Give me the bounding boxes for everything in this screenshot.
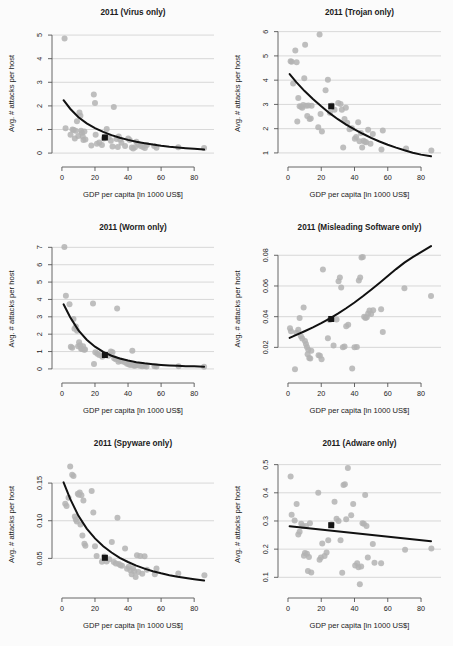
scatter-point [104, 126, 110, 132]
x-tick-label: 80 [417, 604, 425, 613]
y-tick-label: 1 [35, 127, 44, 131]
scatter-point [338, 537, 344, 543]
scatter-point [142, 553, 148, 559]
chart-svg-virus: 2011 (Virus only)012345020406080GDP per … [0, 0, 226, 215]
scatter-point [324, 550, 330, 556]
scatter-point [342, 481, 348, 487]
x-tick-label: 60 [157, 173, 165, 182]
x-tick-label: 80 [190, 604, 198, 613]
highlight-marker-square [328, 316, 334, 322]
y-tick-label: 0.3 [261, 516, 270, 526]
x-tick-label: 20 [91, 173, 99, 182]
scatter-point [93, 132, 99, 138]
y-tick-label: 5 [35, 280, 44, 284]
scatter-point [99, 142, 105, 148]
scatter-point [301, 75, 307, 81]
scatter-point [319, 356, 325, 362]
scatter-point [81, 128, 87, 134]
scatter-point [370, 307, 376, 313]
panel-title: 2011 (Trojan only) [325, 8, 394, 17]
scatter-point [114, 515, 120, 521]
scatter-point [362, 492, 368, 498]
scatter-point [380, 329, 386, 335]
x-tick-label: 0 [60, 604, 64, 613]
scatter-point [295, 327, 301, 333]
scatter-point [129, 348, 135, 354]
scatter-point [92, 100, 98, 106]
y-tick-label: 4 [261, 78, 270, 82]
y-tick-label: 0.10 [35, 514, 44, 528]
scatter-point [325, 335, 331, 341]
scatter-point [74, 118, 80, 124]
scatter-point [378, 560, 384, 566]
scatter-point [292, 517, 298, 523]
y-tick-label: 2 [35, 332, 44, 336]
scatter-point [201, 572, 207, 578]
y-tick-label: 0.04 [261, 310, 270, 324]
scatter-point [355, 119, 361, 125]
scatter-point [69, 345, 75, 351]
x-tick-label: 40 [351, 604, 359, 613]
scatter-point [90, 301, 96, 307]
scatter-point [342, 344, 348, 350]
x-tick-label: 0 [286, 604, 290, 613]
y-tick-label: 0.06 [261, 279, 270, 293]
x-tick-label: 0 [286, 173, 290, 182]
scatter-point [91, 92, 97, 98]
scatter-point [350, 501, 356, 507]
x-tick-label: 20 [317, 389, 325, 398]
scatter-series [288, 465, 435, 587]
scatter-point [80, 497, 86, 503]
scatter-point [363, 523, 369, 529]
scatter-point [308, 570, 314, 576]
scatter-point [357, 581, 363, 587]
scatter-point [114, 305, 120, 311]
y-axis-title: Avg. # attacks per host [233, 485, 242, 563]
scatter-series [61, 244, 207, 370]
x-tick-label: 80 [190, 389, 198, 398]
highlight-marker-square [102, 135, 108, 141]
scatter-point [78, 492, 84, 498]
scatter-point [89, 488, 95, 494]
scatter-point [325, 77, 331, 83]
y-tick-label: 6 [261, 30, 270, 34]
y-tick-label: 0.5 [261, 460, 270, 470]
y-axis-title: Avg. # attacks per host [7, 485, 16, 563]
x-tick-label: 60 [384, 173, 392, 182]
scatter-point [345, 465, 351, 471]
chart-svg-worm: 2011 (Worm only)01234567020406080GDP per… [0, 215, 226, 431]
scatter-point [317, 32, 323, 38]
y-tick-label: 1 [261, 151, 270, 155]
panel-virus: 2011 (Virus only)012345020406080GDP per … [0, 0, 226, 215]
y-tick-label: 6 [35, 263, 44, 267]
scatter-point [62, 36, 68, 42]
x-tick-label: 0 [286, 389, 290, 398]
scatter-point [109, 539, 115, 545]
scatter-point [354, 344, 360, 350]
scatter-point [323, 87, 329, 93]
scatter-point [294, 59, 300, 65]
panel-adware: 2011 (Adware only)0.10.20.30.40.50204060… [226, 431, 453, 646]
scatter-point [338, 101, 344, 107]
scatter-point [358, 564, 364, 570]
highlight-marker-square [328, 522, 334, 528]
scatter-point [336, 518, 342, 524]
scatter-point [325, 537, 331, 543]
scatter-point [64, 503, 70, 509]
scatter-point [402, 547, 408, 553]
x-axis-title: GDP per capita [in 1000 US$] [310, 621, 410, 630]
scatter-point [301, 304, 307, 310]
y-tick-label: 0.02 [261, 340, 270, 354]
x-axis-title: GDP per capita [in 1000 US$] [83, 406, 183, 415]
scatter-point [307, 355, 313, 361]
scatter-point [308, 348, 314, 354]
x-tick-label: 40 [351, 389, 359, 398]
x-axis-title: GDP per capita [in 1000 US$] [83, 190, 183, 199]
scatter-point [365, 127, 371, 133]
y-axis-title: Avg. # attacks per host [7, 54, 16, 132]
scatter-point [110, 143, 116, 149]
scatter-point [297, 315, 303, 321]
scatter-point [88, 143, 94, 149]
scatter-point [348, 512, 354, 518]
scatter-point [139, 571, 145, 577]
